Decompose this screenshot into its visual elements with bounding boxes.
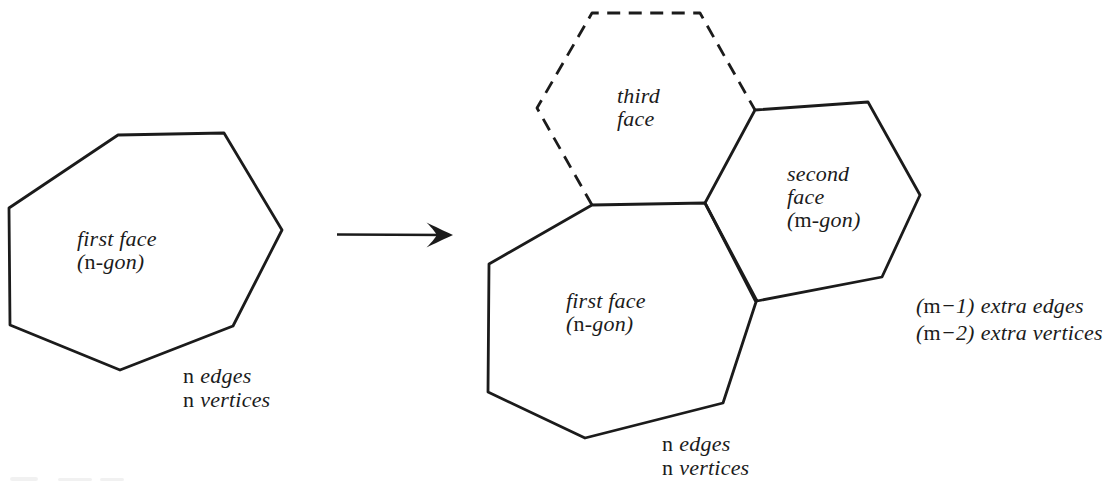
arrow-shaft [337,235,447,236]
figure-diagram: first face (n-gon) nedges nvertices firs… [0,0,1114,483]
arrow-icon [337,223,453,248]
cluster-counts: nedges nvertices [662,432,749,480]
second-face-label-line1: second [787,162,861,185]
third-face-label-line1: third [617,84,660,107]
third-face-label: third face [617,84,660,130]
diagram-canvas [0,0,1114,483]
extra-vertices-count: (m−2)extra vertices [916,319,1103,346]
left-counts: nedges nvertices [183,364,270,412]
scan-artifact [58,478,92,481]
second-face-label-line2: face [787,185,861,208]
scan-artifact [10,477,38,481]
left-first-face-label: first face (n-gon) [77,227,157,273]
left-vertices-count: nvertices [183,388,270,412]
left-first-face-label-line2: (n-gon) [77,250,157,273]
extra-counts: (m−1)extra edges (m−2)extra vertices [916,292,1103,346]
cluster-first-face-label: first face (n-gon) [566,289,646,335]
left-edges-count: nedges [183,364,270,388]
cluster-first-face-label-line2: (n-gon) [566,312,646,335]
extra-edges-count: (m−1)extra edges [916,292,1103,319]
scan-artifact [100,478,124,481]
cluster-vertices-count: nvertices [662,456,749,480]
cluster-edges-count: nedges [662,432,749,456]
second-face-label-line3: (m-gon) [787,208,861,231]
cluster-first-face-label-line1: first face [566,289,646,312]
second-face-label: second face (m-gon) [787,162,861,231]
third-face-label-line2: face [617,107,660,130]
left-first-face-label-line1: first face [77,227,157,250]
